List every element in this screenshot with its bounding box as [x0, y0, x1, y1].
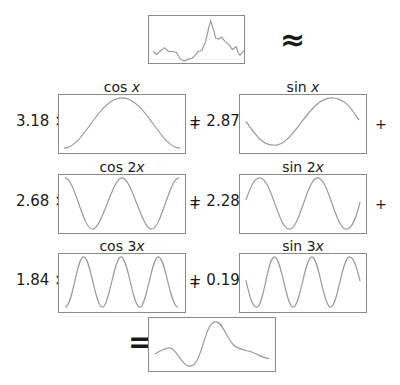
approx-symbol: ≈ — [280, 23, 305, 57]
plot-sin-2x — [239, 174, 367, 234]
plot-cos-2x — [58, 174, 186, 234]
cos-x-curve — [59, 95, 185, 153]
cos-2x-curve — [59, 175, 185, 233]
reconstructed-signal-plot — [148, 317, 276, 372]
plot-sin-x — [239, 94, 367, 154]
plus-sign: + — [375, 116, 387, 132]
sin-x-curve — [240, 95, 366, 153]
cos-3x-curve — [59, 254, 185, 312]
sin-3x-curve — [240, 254, 366, 312]
plot-cos-x — [58, 94, 186, 154]
noisy-signal-curve — [149, 16, 244, 63]
label-cos-x: cos x — [58, 79, 186, 95]
label-cos-3x: cos 3x — [58, 238, 186, 254]
original-signal-plot — [148, 15, 245, 64]
label-sin-2x: sin 2x — [239, 159, 367, 175]
label-sin-x: sin x — [239, 79, 367, 95]
reconstructed-signal-curve — [149, 318, 275, 371]
sin-2x-curve — [240, 175, 366, 233]
plot-sin-3x — [239, 253, 367, 313]
label-sin-3x: sin 3x — [239, 238, 367, 254]
label-cos-2x: cos 2x — [58, 159, 186, 175]
plus-sign: + — [375, 196, 387, 212]
plot-cos-3x — [58, 253, 186, 313]
